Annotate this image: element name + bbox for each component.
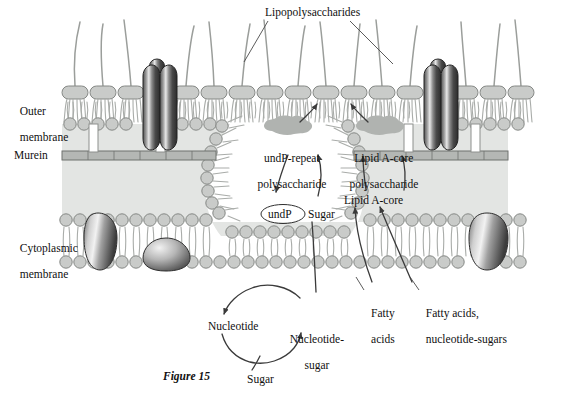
label-nucleotide-sugar-line1: Nucleotide-: [290, 333, 344, 345]
label-sugar-bottom: Sugar: [247, 373, 274, 386]
porin-left: [143, 59, 177, 150]
label-cytoplasmic-membrane-line2: membrane: [20, 268, 69, 280]
porin-right: [424, 59, 458, 150]
label-fatty-acids: Fatty acids: [358, 294, 402, 346]
label-fatty-nucleotide-line2: nucleotide-sugars: [426, 333, 507, 345]
figure-caption: Figure 15: [163, 370, 210, 382]
label-nucleotide-sugar: Nucleotide- sugar: [278, 320, 350, 372]
label-undp-repeat-polysaccharide: undP-repeat polysaccharide: [246, 139, 332, 191]
inner-membrane-protein-right: [469, 213, 508, 270]
label-nucleotide: Nucleotide: [208, 320, 258, 333]
label-cytoplasmic-membrane: Cytoplasmic membrane: [14, 229, 78, 281]
label-lipid-a-core-polysaccharide: Lipid A-core polysaccharide: [338, 139, 424, 191]
label-cytoplasmic-membrane-line1: Cytoplasmic: [20, 242, 78, 254]
label-fatty-nucleotide-line1: Fatty acids,: [426, 307, 479, 319]
label-outer-membrane-line2: membrane: [20, 131, 69, 143]
inner-membrane-protein-left: [84, 213, 117, 270]
label-sugar-membrane: Sugar: [308, 208, 335, 221]
label-lipid-a-core: Lipid A-core: [344, 194, 403, 207]
label-undp-repeat-line1: undP-repeat: [264, 152, 320, 164]
label-fatty-acids-line1: Fatty: [371, 307, 395, 319]
label-undp-repeat-line2: polysaccharide: [257, 178, 326, 190]
label-outer-membrane-line1: Outer: [20, 105, 46, 117]
label-undp: undP: [268, 208, 292, 221]
label-fatty-acids-nucleotide-sugars: Fatty acids, nucleotide-sugars: [420, 294, 507, 346]
label-lipopolysaccharides: Lipopolysaccharides: [265, 6, 360, 19]
label-lipid-a-core-poly-line1: Lipid A-core: [354, 152, 413, 164]
label-nucleotide-sugar-line2: sugar: [304, 359, 329, 371]
lps-head-groups: [62, 86, 534, 99]
label-lipid-a-core-poly-line2: polysaccharide: [349, 178, 418, 190]
label-outer-membrane: Outer membrane: [14, 92, 68, 144]
cm-upper-heads-mid: [226, 226, 350, 238]
label-fatty-acids-line2: acids: [371, 333, 395, 345]
cm-upper-heads-left: [60, 214, 212, 226]
label-murein: Murein: [14, 149, 48, 162]
